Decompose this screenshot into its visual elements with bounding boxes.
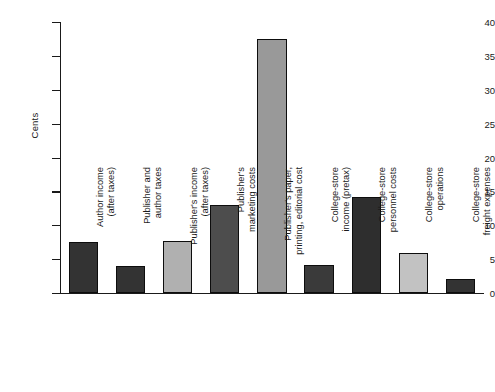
bar[interactable] [257,39,286,293]
bar-slot [201,22,248,293]
bar-slot [154,22,201,293]
bar[interactable] [304,265,333,293]
bar-slot [248,22,295,293]
bar[interactable] [210,205,239,293]
bar[interactable] [446,279,475,293]
bar-slot [343,22,390,293]
bar[interactable] [116,266,145,293]
bar-slot [390,22,437,293]
bar[interactable] [399,253,428,293]
bar[interactable] [352,197,381,293]
bar-slot [60,22,107,293]
bar-slot [437,22,484,293]
plot-area [60,22,484,293]
bar-slot [107,22,154,293]
bar-slot [296,22,343,293]
bar[interactable] [69,242,98,293]
y-axis-title: Cents [29,86,40,166]
bar-chart-figure: Cents 0510152025303540 Author income(aft… [0,0,495,392]
bar[interactable] [163,241,192,293]
